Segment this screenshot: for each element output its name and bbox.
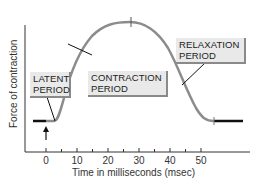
relaxation-line-1: RELAXATION [179,39,242,50]
stimulus-arrow-icon [43,126,49,132]
x-tick-20: 20 [102,155,113,166]
contraction-line-2: PERIOD [91,83,164,94]
twitch-chart: LATENT PERIOD CONTRACTION PERIOD RELAXAT… [0,0,256,179]
x-ticks [46,148,201,152]
x-axis-title: Time in milliseconds (msec) [72,167,195,178]
latent-line-2: PERIOD [33,84,67,95]
x-tick-0: 0 [43,155,49,166]
x-tick-50: 50 [195,155,206,166]
latent-line-1: LATENT [33,73,67,84]
relaxation-leader [182,62,206,85]
contraction-line-1: CONTRACTION [91,72,164,83]
latent-period-label: LATENT PERIOD [30,72,71,98]
contraction-period-label: CONTRACTION PERIOD [88,71,168,97]
x-tick-40: 40 [164,155,175,166]
x-tick-30: 30 [133,155,144,166]
x-tick-10: 10 [71,155,82,166]
y-axis-title: Force of contraction [8,40,19,128]
relaxation-period-label: RELAXATION PERIOD [176,38,246,64]
relaxation-line-2: PERIOD [179,50,242,61]
latent-leader [47,97,55,121]
